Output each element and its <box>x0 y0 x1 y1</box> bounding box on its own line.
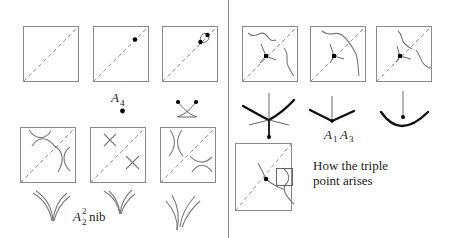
caustic-sketch-3 <box>381 91 428 126</box>
dashed-diagonal <box>377 27 432 82</box>
diagram-canvas: A 4 <box>0 0 454 238</box>
tangent-line <box>269 120 289 125</box>
nib-sketch-1 <box>33 191 70 221</box>
nib-label: A 2 2 nib <box>72 206 106 227</box>
tangent-line <box>249 120 269 125</box>
a1-label-sub: 1 <box>333 134 338 144</box>
nib-curve <box>166 201 177 230</box>
a1-label-base: A <box>323 127 332 142</box>
a4-isolated-dot <box>120 109 125 114</box>
triple-point-dot <box>398 54 402 58</box>
hyperbola-arc <box>32 139 56 148</box>
a4-label: A 4 <box>110 90 125 113</box>
caption-line-2: point arises <box>313 173 373 188</box>
a3-label-base: A <box>339 127 348 142</box>
dashed-diagonal <box>161 128 216 183</box>
dashed-diagonal <box>91 128 146 183</box>
swallowtail-dot-left <box>176 100 180 104</box>
dashed-diagonal <box>21 128 76 183</box>
wavy-curve <box>284 48 294 76</box>
hyperbola-arc <box>64 147 70 171</box>
a4-label-base: A <box>110 90 119 105</box>
hyperbola-arc <box>169 130 174 156</box>
dashed-diagonal <box>24 27 79 82</box>
wavy-curve <box>248 33 276 41</box>
nib-label-sup: 2 <box>82 206 87 216</box>
triple-point-dot <box>264 54 268 58</box>
wavy-curve <box>416 50 431 68</box>
a4-label-sub: 4 <box>120 98 125 108</box>
caustic-sketch-1 <box>243 93 294 139</box>
split-dot-upper <box>205 33 209 37</box>
bold-arc-curve <box>381 112 428 126</box>
box-triple-point-origin <box>236 144 295 211</box>
nib-sketch-3 <box>166 195 200 230</box>
a3-label-sub: 3 <box>349 134 354 144</box>
hyperbola-arc <box>29 130 51 138</box>
nib-curve <box>180 196 195 227</box>
nib-label-sub: 2 <box>82 217 87 227</box>
dashed-diagonal <box>236 144 292 211</box>
caption-line-1: How the triple <box>313 158 388 173</box>
box-triple-point-c <box>377 27 432 82</box>
nib-sketch-2 <box>104 190 135 214</box>
dashed-diagonal <box>311 27 366 82</box>
box-triple-point-a <box>243 27 298 82</box>
box-hyperbolas-pre <box>21 128 76 183</box>
wavy-curve <box>398 31 412 49</box>
swallowtail-dot-right <box>194 100 198 104</box>
a1-a3-label: A 1 A 3 <box>323 127 354 144</box>
triple-point-dot <box>332 54 336 58</box>
nib-curve <box>54 196 70 221</box>
a4-point-dot <box>133 37 138 42</box>
nib-label-text: nib <box>89 209 106 224</box>
wavy-curve <box>322 31 359 76</box>
caustic-sketch-2 <box>310 96 354 123</box>
box-a4-point <box>94 27 149 82</box>
box-a4-split <box>163 27 218 82</box>
bold-caustic-curve <box>243 100 294 120</box>
nib-curve <box>182 201 200 227</box>
split-dot-lower <box>198 40 202 44</box>
box-diagonal-only <box>24 27 79 82</box>
arc-dot <box>401 115 405 119</box>
hyperbola-arc <box>192 165 212 172</box>
triple-point-dot <box>264 177 268 181</box>
nib-curve <box>121 194 135 214</box>
nib-curve <box>109 191 120 214</box>
small-square <box>277 169 293 186</box>
box-hyperbolas-post <box>161 128 216 183</box>
box-triple-point-b <box>311 27 366 82</box>
hyperbola-arc <box>55 146 62 172</box>
nib-label-base: A <box>72 209 81 224</box>
box-crossing <box>91 128 146 183</box>
stem-end-dot <box>267 135 271 139</box>
a4-swallowtail-sketch <box>176 100 198 117</box>
cusp-dot <box>330 119 334 123</box>
dashed-diagonal <box>94 27 149 82</box>
hyperbola-arc <box>178 130 183 156</box>
hyperbola-arc <box>190 156 212 162</box>
